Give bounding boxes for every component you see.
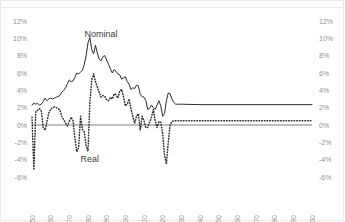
x-axis-label: 1990 — [103, 215, 110, 222]
y-axis-label-right: 8% — [319, 52, 329, 59]
y-axis-label-left: 2% — [17, 104, 27, 111]
y-axis-label-left: -2% — [15, 139, 27, 146]
y-axis-label-left: -6% — [15, 174, 27, 181]
y-axis-label-left: 4% — [17, 87, 27, 94]
y-axis-label-right: 2% — [319, 104, 329, 111]
x-axis-label: 2050 — [215, 215, 222, 222]
x-axis-label: 2070 — [253, 215, 260, 222]
series-annotation-real: Real — [81, 154, 100, 164]
x-axis-label: 2080 — [271, 215, 278, 222]
y-axis-label-right: 4% — [319, 87, 329, 94]
series-annotation-nominal: Nominal — [85, 29, 118, 39]
y-axis-label-left: 6% — [17, 70, 27, 77]
x-axis-label: 1960 — [47, 215, 54, 222]
y-axis-label-left: -4% — [15, 156, 27, 163]
y-axis-label-right: 0% — [319, 122, 329, 129]
x-axis-label: 2100 — [309, 215, 316, 222]
series-line-real — [32, 74, 312, 170]
x-axis-label: 2020 — [159, 215, 166, 222]
x-axis-label: 1980 — [85, 215, 92, 222]
x-axis-label: 2040 — [197, 215, 204, 222]
x-axis-label: 2000 — [122, 215, 129, 222]
y-axis-label-left: 0% — [17, 122, 27, 129]
y-axis-label-right: 6% — [319, 70, 329, 77]
x-axis-label: 2060 — [234, 215, 241, 222]
series-line-nominal — [32, 37, 312, 116]
y-axis-label-left: 8% — [17, 52, 27, 59]
y-axis-label-right: 12% — [319, 18, 333, 25]
x-axis-label: 1950 — [29, 215, 36, 222]
x-axis-label: 2090 — [290, 215, 297, 222]
y-axis-label-left: 10% — [13, 35, 27, 42]
x-axis-label: 1970 — [66, 215, 73, 222]
y-axis-label-right: -2% — [319, 139, 331, 146]
y-axis-label-right: -6% — [319, 174, 331, 181]
y-axis-label-right: 10% — [319, 35, 333, 42]
y-axis-label-left: 12% — [13, 18, 27, 25]
x-axis-label: 2010 — [141, 215, 148, 222]
y-axis-label-right: -4% — [319, 156, 331, 163]
chart-canvas: 12%12%10%10%8%8%6%6%4%4%2%2%0%0%-2%-2%-4… — [1, 1, 345, 222]
x-axis-label: 2030 — [178, 215, 185, 222]
